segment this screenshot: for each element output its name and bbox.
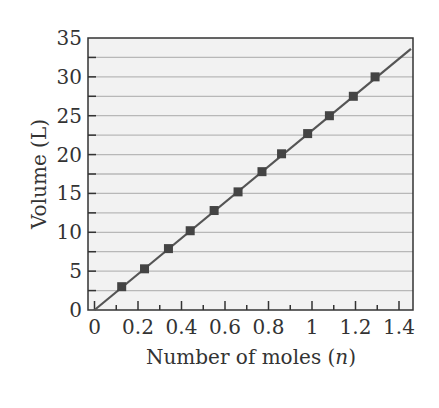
y-tick-label: 30 [57, 65, 82, 89]
x-tick-label: 0 [88, 315, 101, 339]
data-point-marker [277, 149, 286, 158]
data-point-marker [303, 129, 312, 138]
y-tick-label: 25 [57, 104, 82, 128]
x-tick-label: 0.6 [209, 315, 241, 339]
data-point-marker [164, 244, 173, 253]
x-axis-tick-labels: 00.20.40.60.811.21.4 [88, 315, 415, 339]
data-point-marker [186, 226, 195, 235]
y-tick-label: 0 [69, 298, 82, 322]
y-tick-label: 10 [57, 220, 82, 244]
x-tick-label: 1 [306, 315, 319, 339]
x-tick-label: 0.2 [122, 315, 154, 339]
data-point-marker [257, 167, 266, 176]
data-point-marker [234, 187, 243, 196]
data-point-marker [117, 282, 126, 291]
data-point-marker [371, 72, 380, 81]
data-point-marker [349, 92, 358, 101]
data-point-marker [210, 206, 219, 215]
data-point-marker [140, 264, 149, 273]
y-axis-title: Volume (L) [27, 119, 51, 230]
x-tick-label: 0.8 [253, 315, 285, 339]
x-tick-label: 1.2 [340, 315, 372, 339]
x-axis-title: Number of moles (n) [146, 345, 356, 369]
x-tick-label: 0.4 [166, 315, 198, 339]
chart: 05101520253035 00.20.40.60.811.21.4 Volu… [0, 0, 439, 408]
y-tick-label: 5 [69, 259, 82, 283]
y-axis-tick-labels: 05101520253035 [57, 26, 82, 322]
x-tick-label: 1.4 [383, 315, 415, 339]
y-tick-label: 20 [57, 143, 82, 167]
data-point-marker [325, 111, 334, 120]
y-tick-label: 15 [57, 181, 82, 205]
y-tick-label: 35 [57, 26, 82, 50]
